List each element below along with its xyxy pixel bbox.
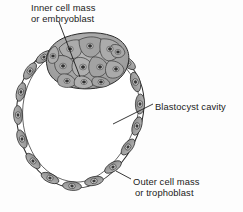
label-blastocyst-cavity: Blastocyst cavity bbox=[155, 101, 226, 112]
label-blastocyst-cavity-line1: Blastocyst cavity bbox=[155, 101, 226, 112]
label-inner-cell-mass-line1: Inner cell mass bbox=[31, 2, 95, 13]
leader-line-outer-cell-mass bbox=[116, 171, 131, 179]
blastocyst-figure: Inner cell mass or embryoblast Blastocys… bbox=[0, 0, 243, 212]
inner-cell-mass bbox=[46, 33, 128, 89]
label-outer-cell-mass-line1: Outer cell mass bbox=[133, 176, 200, 187]
label-outer-cell-mass-line2: or trophoblast bbox=[133, 187, 200, 198]
label-outer-cell-mass: Outer cell mass or trophoblast bbox=[133, 176, 200, 199]
label-inner-cell-mass: Inner cell mass or embryoblast bbox=[31, 2, 95, 25]
label-inner-cell-mass-line2: or embryoblast bbox=[31, 13, 95, 24]
